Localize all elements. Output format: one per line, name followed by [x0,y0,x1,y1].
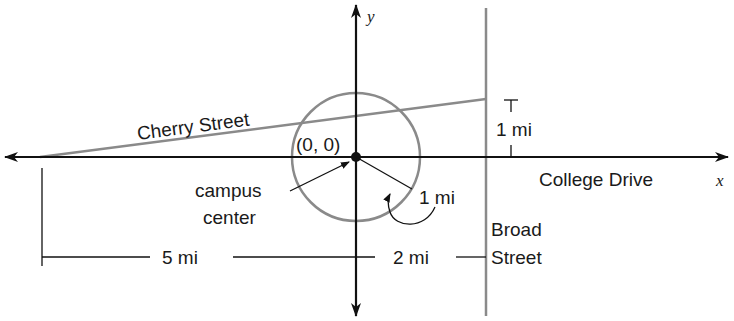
diagram-canvas: y x Cherry Street (0, 0) 1 mi College Dr… [0,0,734,321]
right-distance-label: 2 mi [393,247,429,268]
campus-pointer-arrow [290,162,349,191]
campus-label-1: campus [195,180,262,201]
y-axis-label: y [365,7,375,26]
broad-street-label-1: Broad [491,219,542,240]
origin-label: (0, 0) [296,134,340,155]
x-axis-label: x [715,171,724,190]
cherry-street-label: Cherry Street [136,108,251,143]
height-label: 1 mi [496,119,532,140]
radius-line [356,157,412,189]
campus-label-2: center [203,207,256,228]
left-distance-label: 5 mi [162,247,198,268]
college-drive-label: College Drive [539,169,653,190]
radius-label: 1 mi [419,187,455,208]
broad-street-label-2: Street [491,247,542,268]
